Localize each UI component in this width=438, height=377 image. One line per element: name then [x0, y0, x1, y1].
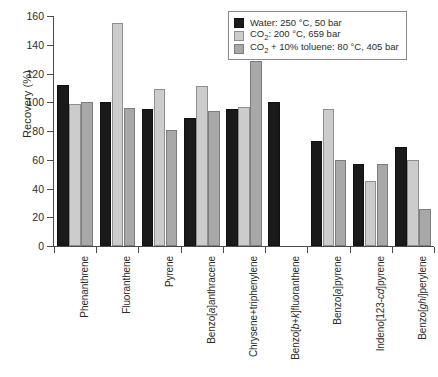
- bar: [112, 23, 124, 246]
- x-axis-tick: [350, 247, 351, 253]
- bar: [250, 61, 262, 246]
- y-axis-tick-label: 80: [4, 126, 44, 137]
- bar: [226, 109, 238, 246]
- bar-group: [54, 16, 96, 246]
- legend-label: CO2: 200 °C, 659 bar: [250, 29, 340, 41]
- x-axis-category-label: Phenanthrene: [79, 256, 90, 318]
- bar: [154, 89, 166, 246]
- x-axis-tick: [96, 247, 97, 253]
- bar: [419, 209, 431, 246]
- y-axis-tick: [47, 246, 53, 247]
- x-axis-tick: [223, 247, 224, 253]
- bar: [323, 109, 335, 246]
- bar: [196, 86, 208, 246]
- y-axis-tick-label: 60: [4, 155, 44, 166]
- bar: [238, 107, 250, 246]
- legend-swatch: [234, 44, 244, 54]
- bar: [184, 118, 196, 246]
- legend-label: CO2 + 10% toluene: 80 °C, 405 bar: [250, 42, 399, 54]
- y-axis-tick: [47, 16, 53, 17]
- bar: [365, 181, 377, 246]
- bar: [407, 160, 419, 246]
- bar: [69, 104, 81, 246]
- bar-group: [138, 16, 180, 246]
- bar: [353, 164, 365, 246]
- bar-group: [96, 16, 138, 246]
- y-axis-tick-label: 140: [4, 40, 44, 51]
- legend-item: CO2: 200 °C, 659 bar: [234, 29, 399, 42]
- x-axis-category-label: Benzo[a]pyrene: [332, 256, 343, 325]
- y-axis-tick-label: 0: [4, 241, 44, 252]
- x-axis-category-label: Indeno[123-cd]pyrene: [375, 256, 386, 351]
- bar: [311, 141, 323, 246]
- recovery-bar-chart: Recovery (%) 020406080100120140160 Phena…: [0, 0, 438, 377]
- bar: [268, 102, 280, 246]
- x-axis-tick: [307, 247, 308, 253]
- x-axis-category-label: Chrysene+triphenylene: [248, 256, 259, 357]
- bar: [335, 160, 347, 246]
- bar: [81, 102, 93, 246]
- y-axis-tick: [47, 189, 53, 190]
- bar: [100, 102, 112, 246]
- x-axis-category-label: Fluoranthene: [121, 256, 132, 314]
- bar: [395, 147, 407, 246]
- y-axis-tick: [47, 45, 53, 46]
- x-axis-line: [53, 246, 434, 247]
- chart-legend: Water: 250 °C, 50 barCO2: 200 °C, 659 ba…: [228, 11, 407, 60]
- x-axis-tick: [54, 247, 55, 253]
- x-axis-tick: [392, 247, 393, 253]
- bar: [57, 85, 69, 246]
- x-axis-tick: [138, 247, 139, 253]
- bar: [208, 111, 220, 246]
- y-axis-tick-label: 160: [4, 11, 44, 22]
- x-axis-category-label: Pyrene: [164, 256, 175, 287]
- x-axis-tick: [265, 247, 266, 253]
- bar: [377, 164, 389, 246]
- x-axis-category-label: Benzo[a]anthracene: [206, 256, 217, 344]
- x-axis-category-label: Benzo[ghi]perylene: [417, 256, 428, 340]
- bar-group: [181, 16, 223, 246]
- legend-label: Water: 250 °C, 50 bar: [250, 18, 342, 28]
- y-axis-tick: [47, 131, 53, 132]
- legend-swatch: [234, 31, 244, 41]
- y-axis-tick: [47, 74, 53, 75]
- y-axis-tick-label: 120: [4, 69, 44, 80]
- y-axis-tick-label: 20: [4, 212, 44, 223]
- y-axis-tick: [47, 217, 53, 218]
- x-axis-tick: [434, 247, 435, 253]
- legend-item: CO2 + 10% toluene: 80 °C, 405 bar: [234, 42, 399, 55]
- legend-swatch: [234, 18, 244, 28]
- x-axis-category-label: Benzo[b+k]fluoranthene: [290, 256, 301, 360]
- bar: [142, 109, 154, 246]
- x-axis-tick: [181, 247, 182, 253]
- y-axis-tick-label: 40: [4, 184, 44, 195]
- bar: [166, 130, 178, 246]
- y-axis-tick: [47, 160, 53, 161]
- bar: [124, 108, 136, 246]
- y-axis-tick-label: 100: [4, 97, 44, 108]
- y-axis-tick: [47, 102, 53, 103]
- legend-item: Water: 250 °C, 50 bar: [234, 16, 399, 29]
